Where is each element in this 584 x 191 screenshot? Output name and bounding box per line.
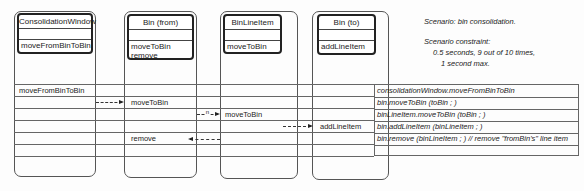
row-divider [14,84,374,85]
row-divider [14,120,374,121]
arrowhead-right-icon [119,100,124,104]
scenario-note: Scenario: bin consolidation. [424,17,516,26]
class-box-bin-to: Bin (to) addLineItem [317,14,376,55]
class-operations: moveToBin remove [129,41,192,61]
class-box-consolidation-window: ConsolidationWindow moveFromBinToBin [17,13,93,54]
constraint-line-1: 0.5 seconds, 9 out of 10 times, [433,48,535,57]
class-name: Bin (to) [319,16,374,30]
arrowhead-right-icon [308,124,313,128]
class-attributes [319,30,374,41]
multiplicity-label: n [205,109,210,115]
class-attributes [19,29,91,40]
message-label: moveToBin [131,98,168,107]
message-label: remove [131,134,156,143]
class-operation: moveToBin [225,41,280,52]
scenario-script-box: consolidationWindow.moveFromBinToBin bin… [374,84,579,156]
message-arrow [190,139,220,140]
class-box-bin-from: Bin (from) moveToBin remove [127,14,194,60]
message-label: moveToBin [225,110,262,119]
class-name: Bin (from) [129,16,192,30]
class-operation: moveToBin [131,42,190,51]
arrowhead-right-icon [215,112,220,116]
class-operation: addLineItem [319,41,374,52]
class-attributes [129,30,192,41]
message-label: addLineItem [320,122,361,131]
message-arrow: n [197,114,218,115]
class-box-bin-line-item: BinLineItem moveToBin [223,14,282,54]
row-divider [14,156,374,157]
arrowhead-left-icon [188,137,193,141]
message-arrow [96,102,122,103]
message-arrow [283,126,311,127]
class-operation: remove [131,51,190,60]
row-divider [14,132,374,133]
class-name: ConsolidationWindow [19,15,91,29]
row-divider [14,96,374,97]
class-attributes [225,30,280,41]
constraint-line-2: 1 second max. [441,59,490,68]
class-name: BinLineItem [225,16,280,30]
constraint-title: Scenario constraint: [424,37,490,46]
message-label: moveFromBinToBin [19,86,84,95]
row-divider [14,144,374,145]
row-divider [14,108,374,109]
script-line: bin.remove (binLineItem ; ) // remove "f… [375,133,578,146]
class-operation: moveFromBinToBin [19,40,91,51]
